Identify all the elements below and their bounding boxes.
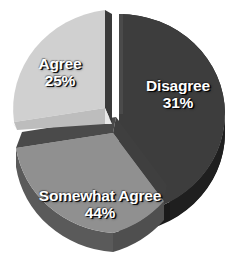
slice-agree-top: [13, 10, 105, 122]
pie-chart: Disagree 31% Agree 25% Somewhat Agree 44…: [0, 0, 250, 264]
slice-agree-cut-wall-right: [105, 10, 112, 124]
slice-disagree-left-edge: [119, 14, 123, 114]
slice-agree[interactable]: [12, 10, 112, 130]
pie-chart-graphic: [0, 0, 250, 264]
